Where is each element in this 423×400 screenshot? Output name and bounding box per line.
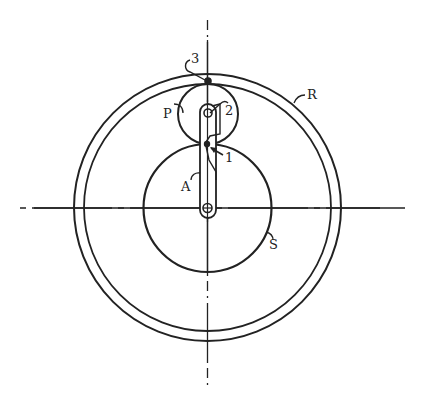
contact-point-3 xyxy=(204,77,212,85)
label-r: R xyxy=(307,87,318,102)
label-s: S xyxy=(269,237,278,252)
planetary-gear-diagram: 3 2 1 P A S R xyxy=(0,0,423,400)
leader-a xyxy=(191,173,200,180)
label-3: 3 xyxy=(191,51,199,66)
label-2: 2 xyxy=(225,103,233,118)
label-1: 1 xyxy=(225,150,233,165)
label-a: A xyxy=(180,179,191,194)
arm xyxy=(200,100,216,222)
label-p: P xyxy=(163,106,172,121)
contact-point-1 xyxy=(204,141,210,147)
leader-r xyxy=(294,95,305,103)
